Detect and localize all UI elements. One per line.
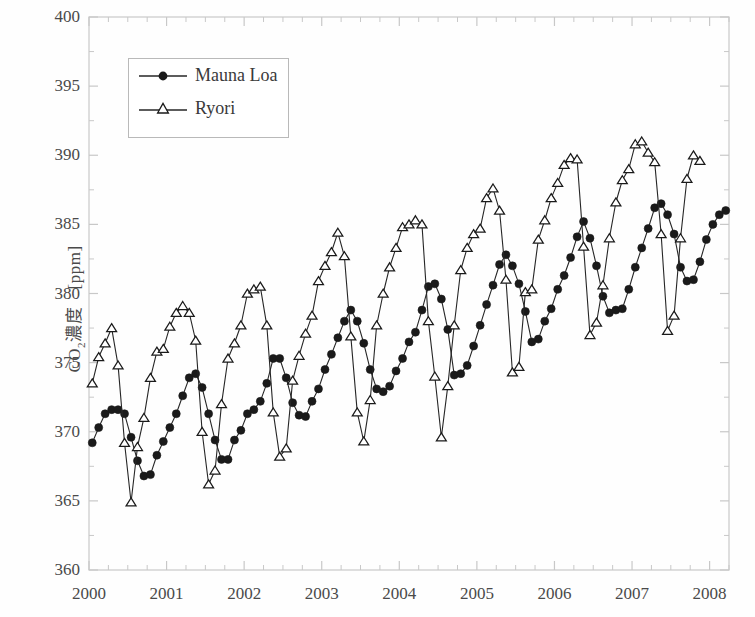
legend-label-ryori: Ryori (189, 98, 235, 119)
y-tick-label: 370 (30, 422, 80, 442)
x-tick-label: 2008 (693, 584, 727, 604)
legend-label-mauna-loa: Mauna Loa (189, 65, 277, 86)
x-tick-label: 2006 (537, 584, 571, 604)
chart-legend: Mauna Loa Ryori (128, 58, 289, 138)
x-tick-label: 2002 (227, 584, 261, 604)
y-tick-label: 360 (30, 560, 80, 580)
legend-marker-open-triangle (137, 99, 189, 119)
series-mauna-loa (88, 200, 729, 480)
y-tick-label: 400 (30, 7, 80, 27)
x-tick-label: 2000 (72, 584, 106, 604)
y-tick-label: 385 (30, 214, 80, 234)
legend-item-ryori: Ryori (129, 92, 288, 125)
x-tick-label: 2004 (382, 584, 416, 604)
y-tick-label: 380 (30, 284, 80, 304)
y-tick-label: 375 (30, 353, 80, 373)
plot-canvas (0, 0, 755, 617)
x-tick-label: 2001 (150, 584, 184, 604)
x-tick-label: 2007 (615, 584, 649, 604)
y-tick-label: 365 (30, 491, 80, 511)
co2-concentration-chart: CO2濃度 [ppm] 3603653703753803853903954002… (0, 0, 755, 617)
data-series-group (87, 137, 729, 506)
series-ryori (87, 137, 705, 506)
y-tick-label: 390 (30, 145, 80, 165)
legend-item-mauna-loa: Mauna Loa (129, 59, 288, 92)
x-tick-label: 2003 (305, 584, 339, 604)
legend-marker-filled-circle (137, 66, 189, 86)
y-tick-label: 395 (30, 76, 80, 96)
x-tick-label: 2005 (460, 584, 494, 604)
